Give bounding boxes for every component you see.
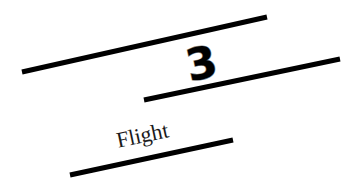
flight-label: Flight: [114, 117, 171, 152]
card-graphic: 3 Flight: [0, 0, 358, 191]
stripe-top: [22, 17, 267, 72]
stripe-middle: [144, 59, 340, 100]
tilted-card: 3 Flight: [0, 0, 358, 191]
numeral-three: 3: [181, 35, 222, 91]
